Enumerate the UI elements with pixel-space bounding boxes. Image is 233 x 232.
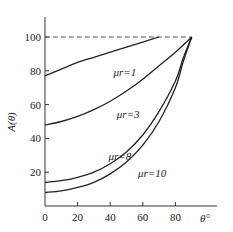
y-tick-label: 20	[30, 166, 42, 178]
y-tick-label: 40	[30, 132, 42, 144]
y-tick-label: 80	[30, 65, 42, 77]
x-axis-label: θ°	[200, 212, 210, 224]
series-label: μr=1	[112, 66, 136, 78]
y-tick-label: 100	[25, 31, 42, 43]
ticks: 02040608020406080100	[25, 31, 182, 223]
chart: 02040608020406080100 μr=1μr=3μr=8μr=10 A…	[0, 0, 233, 232]
x-tick-label: 20	[72, 211, 84, 223]
series-line-1	[45, 37, 159, 76]
series-label: μr=3	[116, 108, 140, 120]
x-tick-label: 0	[42, 211, 48, 223]
x-tick-label: 60	[137, 211, 149, 223]
y-axis-label: A(θ)	[5, 112, 18, 133]
series-label: μr=8	[108, 150, 132, 162]
y-tick-label: 60	[30, 99, 42, 111]
x-tick-label: 80	[170, 211, 182, 223]
series-label: μr=10	[137, 167, 167, 179]
x-tick-label: 40	[105, 211, 117, 223]
